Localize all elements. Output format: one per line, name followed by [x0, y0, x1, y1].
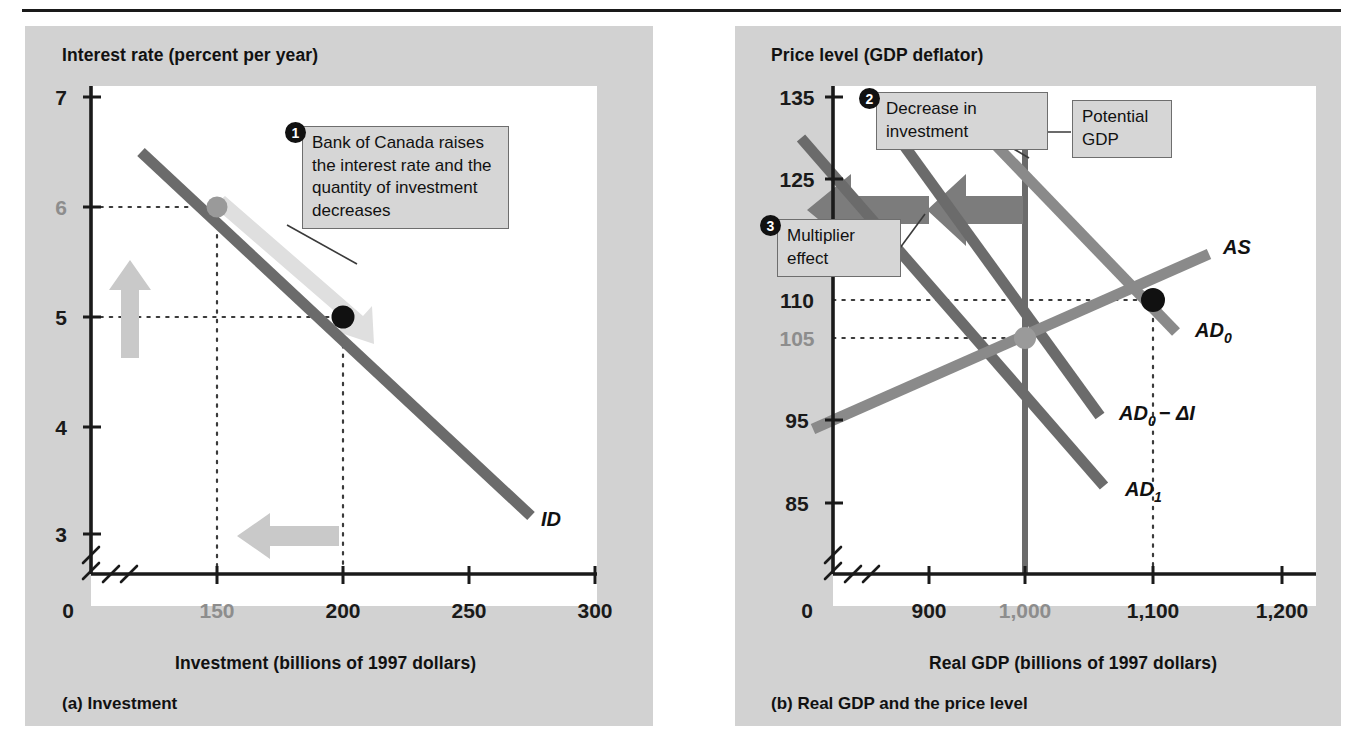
panel-b-curve-label-ad0di-suffix: − ΔI: [1159, 402, 1196, 424]
panel-a-ytick-3: 3: [55, 523, 67, 546]
panel-b-curve-label-ad0di-sub: 0: [1148, 413, 1156, 429]
panel-b-caption: (b) Real GDP and the price level: [771, 694, 1028, 714]
panel-b-curve-label-ad1-sub: 1: [1154, 489, 1162, 505]
panel-b-curve-label-ad0-sub: 0: [1224, 330, 1232, 346]
panel-b-ytick-95: 95: [785, 409, 809, 432]
panel-b-ytick-125: 125: [779, 168, 814, 191]
panel-a-ytick-7: 7: [55, 86, 67, 109]
panel-a-xtick-200: 200: [325, 599, 360, 622]
figure-root: Interest rate (percent per year): [0, 0, 1363, 750]
panel-a-callout-1: Bank of Canada raises the interest rate …: [302, 126, 509, 229]
panel-b-xtick-900: 900: [911, 599, 946, 622]
panel-b-xtick-1100: 1,100: [1127, 599, 1180, 622]
panel-b-x-axis-title: Real GDP (billions of 1997 dollars): [929, 653, 1217, 674]
panel-a-ytick-4: 4: [55, 416, 67, 439]
panel-a-ytick-5: 5: [55, 306, 67, 329]
panel-a-ytick-6: 6: [55, 196, 67, 219]
panel-a-marker-initial-equilibrium: [332, 306, 355, 329]
panel-b-ytick-85: 85: [785, 492, 809, 515]
panel-b-curve-label-ad0di-base: AD: [1118, 402, 1148, 424]
panel-a-xtick-250: 250: [451, 599, 486, 622]
panel-real-gdp-price-level: Price level (GDP deflator): [735, 26, 1341, 726]
panel-b-callout-decrease-in-investment: Decrease in investment: [876, 92, 1048, 150]
panel-b-callout-number-3: 3: [760, 215, 781, 236]
panel-a-marker-new-equilibrium: [207, 197, 228, 218]
panel-b-marker-new-equilibrium: [1014, 327, 1036, 349]
panel-a-xtick-0: 0: [62, 599, 74, 622]
panel-b-xtick-1000: 1,000: [999, 599, 1052, 622]
panel-b-ytick-135: 135: [779, 86, 814, 109]
panel-a-xtick-150: 150: [199, 599, 234, 622]
panel-b-curve-label-as: AS: [1222, 236, 1251, 258]
panel-b-callout-multiplier-effect: Multiplier effect: [777, 219, 901, 277]
panel-a-curve-label-id: ID: [541, 508, 561, 530]
panel-a-caption: (a) Investment: [62, 694, 177, 714]
panel-a-x-axis-title: Investment (billions of 1997 dollars): [175, 653, 476, 674]
panel-b-callout-potential-gdp: Potential GDP: [1072, 100, 1172, 158]
panel-b-ytick-105: 105: [779, 327, 814, 350]
panel-b-plot-background: [833, 86, 1316, 606]
top-rule: [22, 9, 1341, 12]
panel-investment: Interest rate (percent per year): [25, 26, 653, 726]
panel-b-xtick-1200: 1,200: [1256, 599, 1309, 622]
panel-a-xtick-300: 300: [577, 599, 612, 622]
panel-b-curve-label-ad0-base: AD: [1194, 319, 1224, 341]
panel-b-curve-label-ad1-base: AD: [1124, 478, 1154, 500]
panel-b-marker-initial-equilibrium: [1141, 288, 1165, 312]
panel-b-ytick-110: 110: [780, 289, 814, 312]
panel-b-xtick-0: 0: [801, 599, 813, 622]
panel-b-callout-number-2: 2: [859, 88, 880, 109]
panel-a-callout-number-1: 1: [285, 122, 306, 143]
